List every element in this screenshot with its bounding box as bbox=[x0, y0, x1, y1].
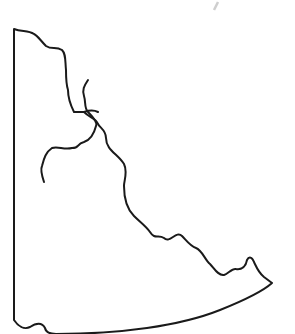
faint-mark bbox=[214, 2, 218, 10]
territory-boundary bbox=[14, 29, 272, 334]
map-canvas bbox=[0, 0, 295, 334]
